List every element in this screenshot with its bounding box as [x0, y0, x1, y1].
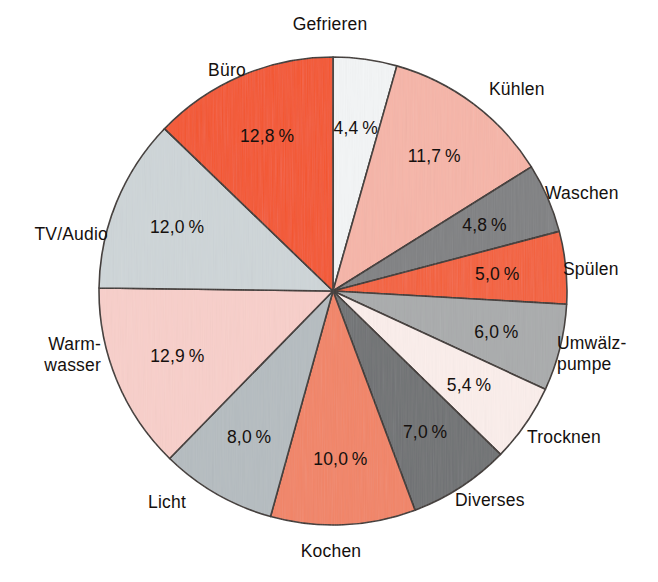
pie-value-label-b-ro: 12,8 % [240, 126, 294, 146]
pie-category-label-gefrieren: Gefrieren [293, 14, 368, 34]
pie-category-label-sp-len: Spülen [563, 259, 619, 279]
pie-value-label-kochen: 10,0 % [313, 449, 367, 469]
pie-value-label-umw-lzpumpe: 6,0 % [474, 322, 518, 342]
pie-category-label-waschen: Waschen [545, 183, 619, 203]
pie-category-label-kochen: Kochen [301, 541, 362, 561]
pie-category-label-k-hlen: Kühlen [489, 79, 545, 99]
pie-value-label-k-hlen: 11,7 % [408, 146, 461, 166]
pie-category-label-warmwasser: Warm-wasser [43, 334, 101, 375]
pie-category-label-licht: Licht [148, 492, 186, 512]
pie-value-label-gefrieren: 4,4 % [334, 118, 378, 138]
pie-category-label-tv-audio: TV/Audio [34, 224, 108, 244]
pie-chart-figure: 4,4 %11,7 %4,8 %5,0 %6,0 %5,4 %7,0 %10,0… [0, 0, 658, 582]
pie-value-label-sp-len: 5,0 % [475, 264, 519, 284]
pie-value-label-diverses: 7,0 % [403, 422, 447, 442]
pie-value-label-licht: 8,0 % [227, 427, 271, 447]
pie-category-label-umw-lzpumpe: Umwälz-pumpe [557, 333, 626, 374]
pie-category-label-b-ro: Büro [208, 60, 246, 80]
pie-category-label-trocknen: Trocknen [527, 427, 601, 447]
pie-value-label-warmwasser: 12,9 % [150, 346, 204, 366]
pie-category-label-diverses: Diverses [455, 490, 525, 510]
pie-value-label-trocknen: 5,4 % [447, 375, 491, 395]
pie-value-label-waschen: 4,8 % [462, 215, 506, 235]
pie-chart-svg: 4,4 %11,7 %4,8 %5,0 %6,0 %5,4 %7,0 %10,0… [0, 0, 658, 582]
pie-value-label-tv-audio: 12,0 % [150, 217, 204, 237]
